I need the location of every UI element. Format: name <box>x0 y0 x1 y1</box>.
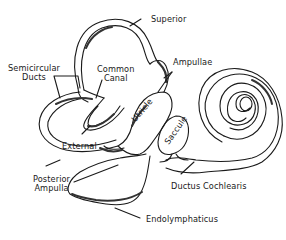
label-common-canal: Common Canal <box>97 65 134 83</box>
common-canal <box>78 88 88 102</box>
label-semicircular-ducts: Semicircular Ducts <box>8 64 60 82</box>
label-posterior-line2: Ampulla <box>33 184 70 193</box>
label-posterior-ampulla: Posterior Ampulla <box>33 175 70 193</box>
label-superior: Superior <box>151 15 186 24</box>
label-ductus-cochlearis: Ductus Cochlearis <box>171 182 247 191</box>
cochlea-apex <box>240 97 252 111</box>
label-common-line2: Canal <box>97 74 134 83</box>
labyrinth-drawing <box>0 0 286 240</box>
label-semicircular-line2: Ducts <box>8 73 60 82</box>
label-ampullae: Ampullae <box>173 58 212 67</box>
leader-posterior <box>46 160 60 166</box>
label-external: External <box>62 142 97 151</box>
leader-posterior-2 <box>74 165 118 182</box>
leader-endolymphaticus <box>115 208 140 218</box>
inner-ear-diagram: Superior Semicircular Ducts Common Canal… <box>0 0 286 240</box>
label-endolymphaticus: Endolymphaticus <box>146 215 218 224</box>
